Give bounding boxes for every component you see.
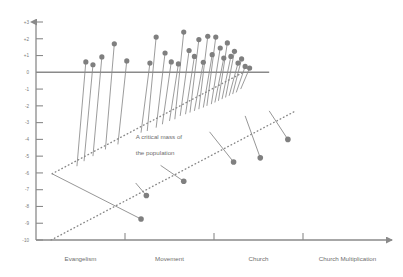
data-point — [186, 48, 191, 53]
segment-line — [52, 174, 141, 219]
segment-line — [210, 132, 234, 162]
data-point — [144, 193, 150, 199]
data-point — [257, 155, 263, 161]
x-category-label: Movement — [155, 255, 184, 262]
data-point — [124, 58, 129, 63]
data-point — [181, 29, 186, 34]
data-point — [210, 52, 215, 57]
y-tick-label: -1 — [25, 87, 30, 92]
stem-line — [147, 37, 156, 131]
y-tick-label: -5 — [25, 154, 30, 159]
data-point — [218, 45, 223, 50]
data-point — [162, 50, 167, 55]
y-tick-label: +2 — [24, 37, 30, 42]
y-tick-label: -10 — [22, 238, 29, 243]
data-point — [231, 159, 237, 165]
y-tick-label: 0 — [26, 70, 29, 75]
y-tick-label: -6 — [25, 171, 30, 176]
data-point — [83, 59, 88, 64]
data-point — [247, 66, 252, 71]
data-point — [192, 54, 197, 59]
data-point — [228, 54, 233, 59]
data-point — [235, 60, 240, 65]
annotation-text: the population — [136, 149, 175, 156]
stem-line — [162, 62, 171, 124]
lower-critical-mass-line — [51, 112, 294, 240]
data-point — [138, 216, 144, 222]
stem-line — [141, 63, 150, 133]
stem-line — [84, 65, 93, 161]
y-tick-label: -4 — [25, 137, 30, 142]
y-tick-labels: +3+2+10-1-2-3-4-5-6-7-8-9-10 — [22, 20, 29, 243]
chart-annotations: A critical mass ofthe population — [136, 133, 183, 156]
stem-line — [180, 51, 189, 116]
x-category-label: Church — [249, 255, 270, 262]
data-point — [221, 55, 226, 60]
stem-line — [207, 37, 216, 106]
data-point — [213, 34, 218, 39]
data-point — [147, 60, 152, 65]
stem-line — [241, 68, 250, 89]
y-tick-label: -3 — [25, 120, 30, 125]
y-tick-label: -7 — [25, 187, 30, 192]
annotation-text: A critical mass of — [136, 133, 183, 140]
data-point — [90, 62, 95, 67]
data-point — [181, 179, 187, 185]
data-point — [112, 41, 117, 46]
chart-container: +3+2+10-1-2-3-4-5-6-7-8-9-10 A critical … — [0, 0, 403, 277]
data-point — [232, 49, 237, 54]
data-point — [285, 137, 291, 143]
y-tick-label: -9 — [25, 221, 30, 226]
segment-line — [161, 165, 184, 181]
data-point — [169, 59, 174, 64]
data-point-markers — [83, 29, 290, 221]
data-point — [239, 56, 244, 61]
stem-line — [105, 44, 114, 150]
data-point — [176, 61, 181, 66]
x-category-label: Church Multiplication — [319, 255, 377, 262]
segment-line — [269, 111, 288, 140]
x-axis-ticks — [125, 233, 303, 240]
y-tick-label: -2 — [25, 104, 30, 109]
x-category-label: Evangelism — [65, 255, 97, 262]
y-axis — [36, 22, 43, 240]
stem-line — [77, 62, 86, 166]
y-tick-label: +3 — [24, 20, 30, 25]
data-point — [201, 60, 206, 65]
data-point — [154, 34, 159, 39]
data-point — [243, 64, 248, 69]
data-point — [99, 54, 104, 59]
data-point — [225, 40, 230, 45]
y-tick-label: +1 — [24, 53, 30, 58]
stem-scatter-chart: +3+2+10-1-2-3-4-5-6-7-8-9-10 A critical … — [0, 0, 403, 277]
y-tick-label: -8 — [25, 204, 30, 209]
data-point — [196, 37, 201, 42]
stem-line — [118, 61, 127, 145]
x-axis-category-labels: EvangelismMovementChurchChurch Multiplic… — [65, 255, 377, 262]
data-point — [205, 34, 210, 39]
